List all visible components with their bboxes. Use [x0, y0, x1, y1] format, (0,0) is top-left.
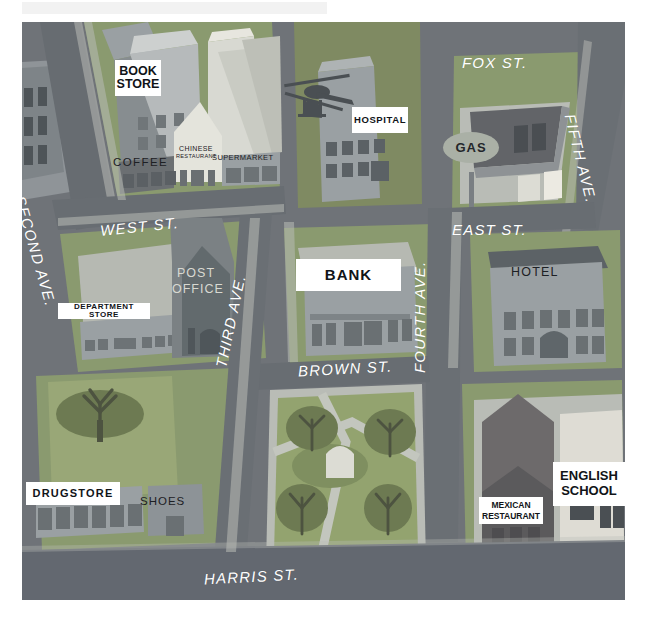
top-bar: [22, 2, 327, 14]
sign-drugstore[interactable]: DRUGSTORE: [26, 482, 120, 505]
map-page: FOX ST. WEST ST. EAST ST. BROWN ST. HARR…: [0, 0, 645, 617]
sign-bank[interactable]: BANK: [296, 259, 401, 291]
label-coffee: COFFEE: [113, 156, 168, 168]
sign-department-store[interactable]: DEPARTMENT STORE: [58, 303, 150, 319]
label-chinese-restaurant: RESTAURANT: [176, 153, 217, 159]
street-label-fox: FOX ST.: [462, 54, 527, 71]
street-label-east: EAST ST.: [452, 221, 527, 238]
label-office: OFFICE: [172, 282, 224, 296]
city-map: FOX ST. WEST ST. EAST ST. BROWN ST. HARR…: [22, 22, 625, 600]
gas-shop-b: [544, 170, 562, 200]
sign-hospital[interactable]: HOSPITAL: [352, 107, 408, 133]
doors-chinese: [180, 170, 215, 186]
building-hospital: [318, 66, 380, 202]
hotel-entrance: [540, 331, 568, 358]
gas-sign-pole: [469, 172, 474, 212]
label-hotel: HOTEL: [511, 265, 559, 279]
sign-gas[interactable]: GAS: [443, 132, 499, 163]
park-monument: [326, 446, 354, 478]
door-shoes: [166, 516, 184, 536]
label-post: POST: [177, 266, 215, 280]
label-shoes: SHOES: [140, 495, 185, 507]
gas-shop-a: [518, 174, 540, 202]
bank-ledge: [310, 314, 410, 320]
windows-bank: [312, 319, 412, 346]
sign-book-store[interactable]: BOOK STORE: [115, 60, 161, 96]
label-supermarket: SUPERMARKET: [212, 153, 274, 162]
label-chinese: CHINESE: [179, 145, 213, 152]
tree-trunk-left: [97, 420, 103, 442]
sign-english-school[interactable]: ENGLISH SCHOOL: [553, 462, 625, 506]
windows-supermarket: [226, 166, 277, 183]
sign-mexican-restaurant[interactable]: MEXICAN RESTAURANT: [479, 497, 543, 524]
avenue-label-fourth: FOURTH AVE.: [411, 261, 428, 373]
